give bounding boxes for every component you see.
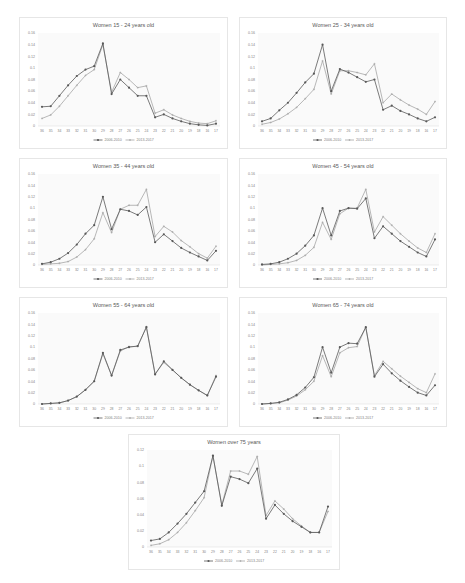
- x-tick-label: 20: [399, 129, 403, 133]
- y-tick-label: 0.14: [28, 323, 35, 327]
- y-tick-label: 0.02: [248, 113, 255, 117]
- data-point: [128, 346, 130, 348]
- legend-marker: [97, 417, 99, 419]
- chart-title: Women 15 - 24 years old: [20, 22, 227, 28]
- data-point: [180, 377, 182, 379]
- x-tick-label: 32: [295, 407, 299, 411]
- data-point: [408, 246, 410, 248]
- data-point: [283, 513, 285, 515]
- data-point: [373, 78, 375, 80]
- x-tick-label: 30: [312, 268, 316, 272]
- data-point: [198, 124, 200, 126]
- x-tick-label: 32: [75, 129, 79, 133]
- x-tick-label: 20: [179, 129, 183, 133]
- y-tick-label: 0.04: [248, 380, 255, 384]
- x-tick-label: 35: [49, 129, 53, 133]
- x-tick-label: 29: [101, 268, 105, 272]
- x-tick-label: 27: [338, 407, 342, 411]
- data-point: [76, 75, 78, 77]
- data-point: [356, 76, 358, 78]
- x-tick-label: 32: [75, 407, 79, 411]
- x-tick-label: 23: [153, 268, 157, 272]
- x-tick-label: 21: [390, 407, 394, 411]
- data-point: [365, 197, 367, 199]
- data-point: [391, 233, 393, 235]
- y-tick-label: 0.12: [248, 334, 255, 338]
- x-tick-label: 32: [75, 268, 79, 272]
- data-point: [287, 258, 289, 260]
- data-point: [339, 68, 341, 70]
- chart-title: Women over 75 years: [129, 439, 339, 445]
- chart-women-25-34: 00.020.040.060.080.10.120.140.1636353433…: [239, 17, 447, 149]
- x-tick-label: 20: [399, 268, 403, 272]
- x-tick-label: 22: [273, 550, 277, 554]
- data-point: [159, 538, 161, 540]
- y-tick-label: 0.08: [248, 357, 255, 361]
- data-point: [261, 263, 263, 265]
- x-tick-label: 35: [269, 129, 273, 133]
- chart-women-55-64: 00.020.040.060.080.10.120.140.1636353433…: [19, 297, 228, 427]
- y-tick-label: 0.02: [248, 391, 255, 395]
- data-point: [84, 233, 86, 235]
- y-tick-label: 0.02: [28, 391, 35, 395]
- x-tick-label: 26: [127, 268, 131, 272]
- y-tick-label: 0: [142, 545, 144, 549]
- legend-label: 2013-2017: [137, 416, 154, 420]
- y-tick-label: 0.12: [28, 334, 35, 338]
- x-tick-label: 23: [153, 407, 157, 411]
- y-tick-label: 0.12: [137, 448, 144, 452]
- x-tick-label: 26: [127, 407, 131, 411]
- legend-marker: [207, 560, 209, 562]
- x-tick-label: 17: [326, 550, 330, 554]
- data-point: [206, 394, 208, 396]
- x-tick-label: 29: [101, 129, 105, 133]
- x-tick-label: 28: [329, 268, 333, 272]
- data-point: [212, 455, 214, 457]
- x-tick-label: 25: [355, 268, 359, 272]
- chart-women-over-75: 00.020.040.060.080.10.123635343332313029…: [128, 434, 340, 570]
- x-tick-label: 33: [286, 129, 290, 133]
- x-tick-label: 30: [202, 550, 206, 554]
- data-point: [111, 228, 113, 230]
- x-tick-label: 20: [291, 550, 295, 554]
- x-tick-label: 36: [40, 407, 44, 411]
- y-tick-label: 0.02: [28, 252, 35, 256]
- data-point: [150, 539, 152, 541]
- y-tick-label: 0.08: [248, 78, 255, 82]
- y-tick-label: 0.1: [30, 66, 35, 70]
- data-point: [58, 258, 60, 260]
- data-point: [434, 238, 436, 240]
- data-point: [102, 196, 104, 198]
- data-point: [270, 263, 272, 265]
- y-tick-label: 0.14: [248, 184, 255, 188]
- y-tick-label: 0.16: [28, 31, 35, 35]
- data-point: [304, 386, 306, 388]
- data-point: [356, 343, 358, 345]
- legend-label: 2006-2010: [324, 277, 341, 281]
- data-point: [339, 210, 341, 212]
- data-point: [171, 117, 173, 119]
- data-point: [300, 526, 302, 528]
- x-tick-label: 33: [286, 268, 290, 272]
- data-point: [137, 214, 139, 216]
- data-point: [168, 531, 170, 533]
- y-tick-label: 0.08: [28, 218, 35, 222]
- y-tick-label: 0.12: [28, 195, 35, 199]
- data-point: [215, 250, 217, 252]
- data-point: [163, 113, 165, 115]
- legend-marker: [240, 560, 242, 562]
- data-point: [304, 81, 306, 83]
- data-point: [270, 117, 272, 119]
- x-tick-label: 16: [424, 407, 428, 411]
- x-tick-label: 23: [153, 129, 157, 133]
- x-tick-label: 25: [136, 268, 140, 272]
- x-tick-label: 29: [321, 268, 325, 272]
- y-tick-label: 0.14: [248, 323, 255, 327]
- x-tick-label: 17: [433, 407, 437, 411]
- data-point: [119, 78, 121, 80]
- y-tick-label: 0.06: [137, 497, 144, 501]
- data-point: [408, 113, 410, 115]
- x-tick-label: 31: [84, 129, 88, 133]
- y-tick-label: 0.16: [28, 172, 35, 176]
- data-point: [296, 253, 298, 255]
